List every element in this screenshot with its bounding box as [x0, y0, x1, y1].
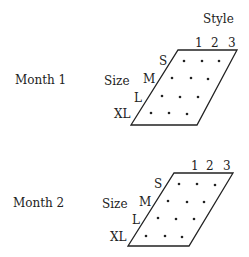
style-label-3-month-2: 3 — [223, 160, 231, 172]
size-label-s: S — [159, 55, 167, 67]
size-axis-title: Size — [104, 75, 129, 87]
style-label-3: 3 — [228, 37, 236, 49]
size-axis-title-month-2: Size — [102, 198, 127, 210]
size-label-xl: XL — [114, 108, 131, 120]
month-1-label: Month 1 — [15, 74, 66, 86]
size-label-l-month-2: L — [132, 214, 140, 226]
size-label-s-month-2: S — [154, 178, 162, 190]
style-label-1: 1 — [195, 37, 203, 49]
month-2-grid-frame — [128, 173, 233, 246]
month-1-dots — [150, 60, 221, 116]
size-label-l: L — [134, 92, 142, 104]
month-2-dots — [145, 183, 217, 239]
style-label-2-month-2: 2 — [206, 160, 214, 172]
size-label-xl-month-2: XL — [110, 231, 127, 243]
style-axis-title: Style — [203, 13, 234, 25]
style-label-2: 2 — [211, 37, 219, 49]
month-2-label: Month 2 — [13, 197, 64, 209]
style-label-1-month-2: 1 — [191, 160, 199, 172]
size-label-m: M — [143, 73, 155, 85]
size-label-m-month-2: M — [139, 196, 151, 208]
